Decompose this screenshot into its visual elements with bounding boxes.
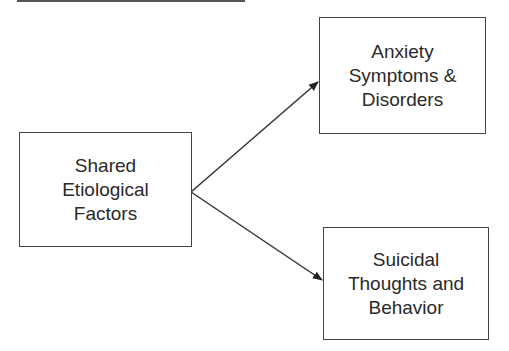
node-line: Behavior [348, 296, 464, 320]
node-line: Anxiety [349, 40, 457, 64]
node-suicidal-thoughts-behavior: Suicidal Thoughts and Behavior [323, 227, 489, 340]
node-line: Thoughts and [348, 272, 464, 296]
arrow-to-anxiety [191, 82, 318, 192]
arrow-to-suicidal [191, 192, 322, 280]
node-shared-etiological-factors: Shared Etiological Factors [19, 132, 192, 247]
node-label: Suicidal Thoughts and Behavior [348, 248, 464, 320]
node-line: Symptoms & [349, 64, 457, 88]
node-line: Disorders [349, 88, 457, 112]
node-line: Etiological [62, 178, 149, 202]
node-line: Suicidal [348, 248, 464, 272]
node-anxiety-symptoms-disorders: Anxiety Symptoms & Disorders [319, 17, 486, 134]
node-label: Anxiety Symptoms & Disorders [349, 40, 457, 112]
node-line: Shared [62, 154, 149, 178]
node-line: Factors [62, 202, 149, 226]
node-label: Shared Etiological Factors [62, 154, 149, 226]
